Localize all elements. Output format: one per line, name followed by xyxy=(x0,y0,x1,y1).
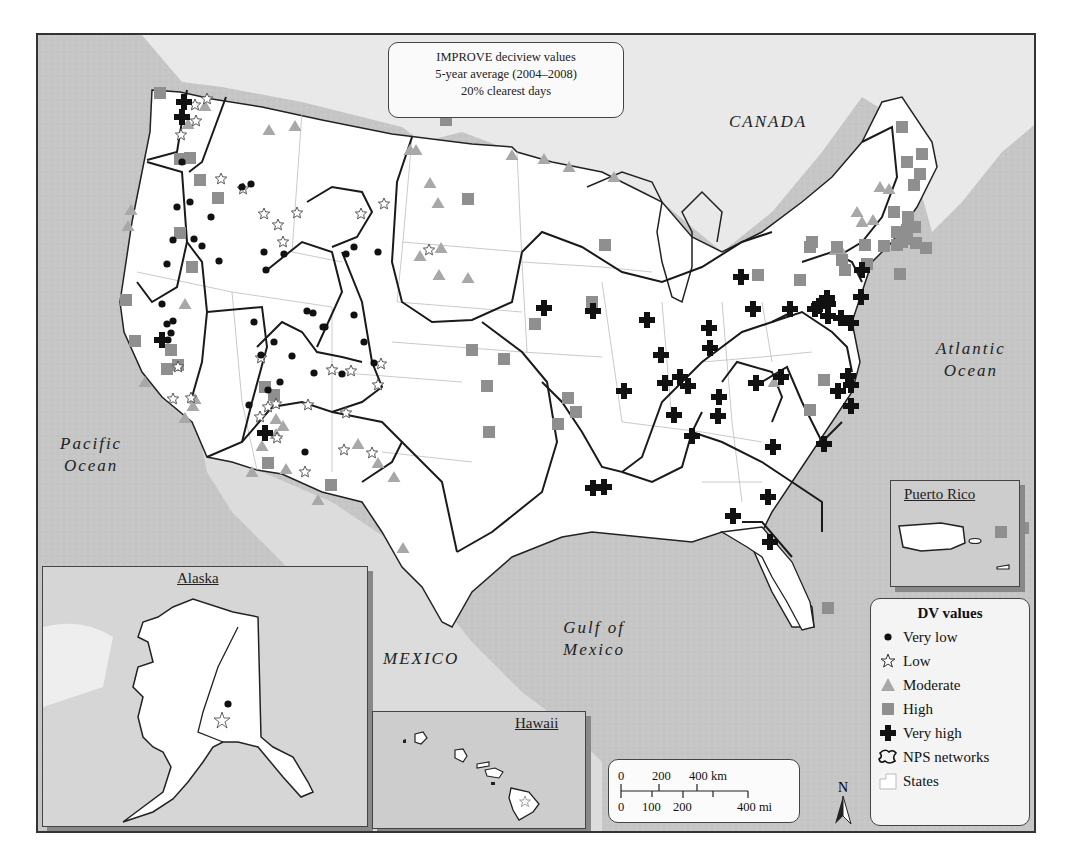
site-very-low xyxy=(169,236,176,243)
site-very-low xyxy=(309,309,316,316)
legend-label: Moderate xyxy=(903,677,960,694)
puerto-rico-site-high xyxy=(995,526,1007,538)
site-high xyxy=(165,344,177,356)
legend-item-high: High xyxy=(871,697,1029,721)
site-high xyxy=(599,239,611,251)
legend: DV values Very low Low Moderate High Ver… xyxy=(870,598,1030,826)
legend-title: DV values xyxy=(871,605,1029,622)
north-arrow: N xyxy=(833,780,853,830)
site-very-low xyxy=(215,257,222,264)
title-line-1: IMPROVE deciview values xyxy=(389,49,623,66)
site-high xyxy=(896,121,908,133)
label-atlantic-line-1: Atlantic xyxy=(936,338,1006,360)
site-high xyxy=(174,227,186,239)
site-high xyxy=(822,602,834,614)
site-very-low xyxy=(276,378,283,385)
label-pacific-line-1: Pacific xyxy=(60,433,122,455)
label-gulf-line-1: Gulf of xyxy=(563,617,625,639)
site-high xyxy=(194,174,206,186)
legend-item-low: Low xyxy=(871,649,1029,673)
legend-label: High xyxy=(903,701,933,718)
site-high xyxy=(212,192,224,204)
site-high xyxy=(161,363,173,375)
map-title-box: IMPROVE deciview values 5-year average (… xyxy=(388,42,624,118)
label-atlantic-line-2: Ocean xyxy=(936,360,1006,382)
alaska-map xyxy=(43,567,367,826)
site-very-low xyxy=(310,369,317,376)
site-very-low xyxy=(158,300,165,307)
legend-label: Very high xyxy=(903,725,962,742)
site-high xyxy=(908,179,920,191)
site-high xyxy=(552,418,564,430)
puerto-rico-title: Puerto Rico xyxy=(904,486,975,503)
legend-label: Low xyxy=(903,653,931,670)
site-very-low xyxy=(163,260,170,267)
scale-bar: 0 200 400 km 0 100 200 400 mi xyxy=(608,759,800,823)
map-frame: IMPROVE deciview values 5-year average (… xyxy=(36,33,1036,833)
low-star-icon xyxy=(877,651,899,671)
site-high xyxy=(818,374,830,386)
scale-mi-100: 100 xyxy=(642,800,661,815)
site-very-low xyxy=(247,180,254,187)
site-very-low xyxy=(163,320,170,327)
site-high xyxy=(120,294,132,306)
site-very-low xyxy=(301,448,308,455)
site-very-low xyxy=(360,338,367,345)
site-very-low xyxy=(264,386,271,393)
hawaii-inset: Hawaii xyxy=(372,711,586,829)
site-high xyxy=(498,353,510,365)
site-very-low xyxy=(198,242,205,249)
high-square-icon xyxy=(877,699,899,719)
site-very-low xyxy=(190,235,197,242)
state-outline-icon xyxy=(877,771,899,791)
site-high xyxy=(896,236,908,248)
label-gulf-of-mexico: Gulf of Mexico xyxy=(563,617,625,661)
label-gulf-line-2: Mexico xyxy=(563,639,625,661)
legend-item-moderate: Moderate xyxy=(871,673,1029,697)
alaska-site-very-low xyxy=(224,700,231,707)
site-very-low xyxy=(280,250,287,257)
site-high xyxy=(529,318,541,330)
site-very-low xyxy=(319,323,326,330)
site-high xyxy=(752,269,764,281)
site-very-low xyxy=(288,352,295,359)
site-very-low xyxy=(178,158,185,165)
scale-mi-200: 200 xyxy=(673,800,692,815)
site-high xyxy=(466,344,478,356)
scale-mi-400: 400 mi xyxy=(737,800,772,815)
very-low-dot-icon xyxy=(877,627,899,647)
site-very-low xyxy=(260,248,267,255)
alaska-title: Alaska xyxy=(177,570,219,587)
site-very-low xyxy=(167,329,174,336)
legend-item-nps-networks: NPS networks xyxy=(871,745,1029,769)
label-canada: CANADA xyxy=(729,112,807,132)
site-high xyxy=(262,457,274,469)
site-very-low xyxy=(350,311,357,318)
site-very-low xyxy=(186,198,193,205)
label-pacific-ocean: Pacific Ocean xyxy=(60,433,122,477)
title-line-3: 20% clearest days xyxy=(389,83,623,100)
site-high xyxy=(920,242,932,254)
site-high xyxy=(129,335,141,347)
site-high xyxy=(859,239,871,251)
legend-label: NPS networks xyxy=(903,749,989,766)
site-high xyxy=(916,148,928,160)
site-very-low xyxy=(350,243,357,250)
very-high-cross-icon xyxy=(877,723,899,743)
site-high xyxy=(901,156,913,168)
site-high xyxy=(483,426,495,438)
site-high xyxy=(804,241,816,253)
north-label: N xyxy=(833,780,853,796)
label-pacific-line-2: Ocean xyxy=(60,455,122,477)
site-very-low xyxy=(250,318,257,325)
site-high xyxy=(186,261,198,273)
site-high xyxy=(878,240,890,252)
site-very-low xyxy=(374,248,381,255)
site-high xyxy=(914,168,926,180)
site-very-low xyxy=(262,266,269,273)
site-high xyxy=(831,241,843,253)
site-high xyxy=(154,87,166,99)
site-high xyxy=(839,264,851,276)
site-high xyxy=(794,274,806,286)
legend-item-very-low: Very low xyxy=(871,625,1029,649)
